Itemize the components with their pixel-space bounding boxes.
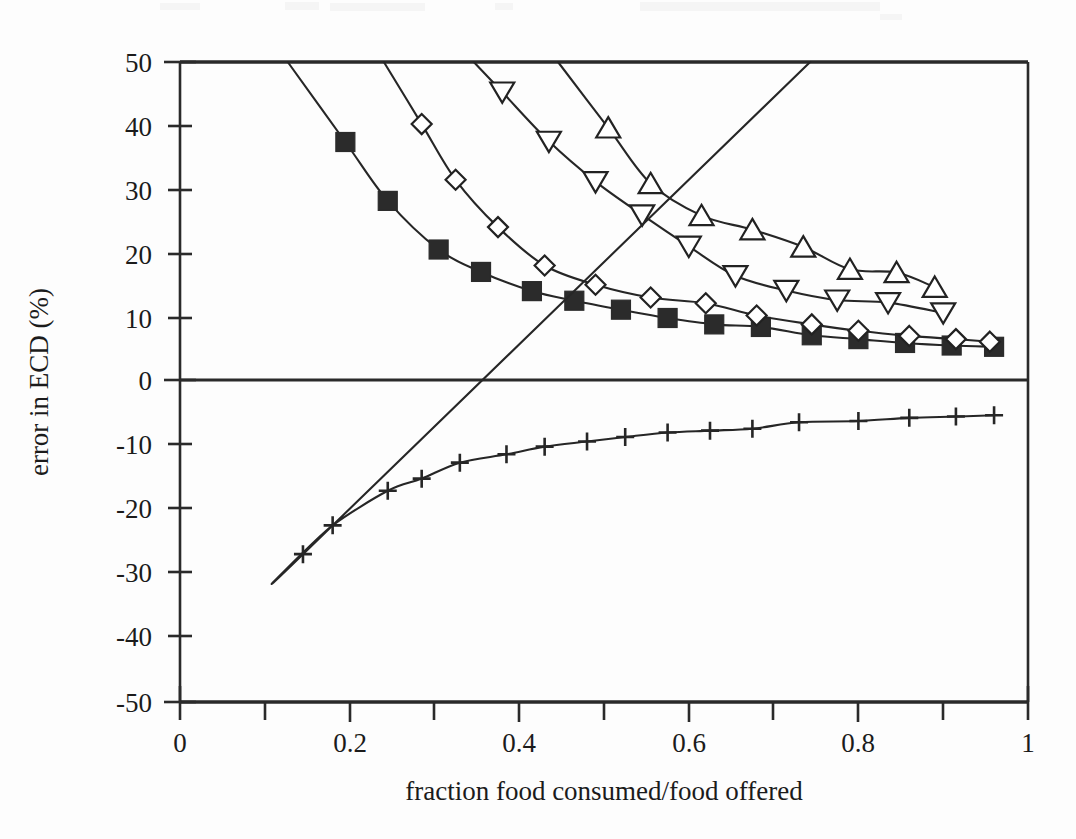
x-axis-title: fraction food consumed/food offered [405,776,803,806]
filled-square-marker [611,300,630,319]
y-tick-label: 40 [125,112,152,142]
filled-square-marker [658,309,677,328]
filled-square-marker [705,315,724,334]
filled-square-marker [522,282,541,301]
y-tick-label: -50 [116,688,152,718]
y-axis-title: error in ECD (%) [24,288,54,476]
y-tick-label: 50 [125,48,152,78]
filled-square-marker [429,240,448,259]
y-tick-label: 10 [125,304,152,334]
y-tick-label: 30 [125,176,152,206]
y-tick-label: -20 [116,494,152,524]
y-tick-label: 0 [139,366,153,396]
filled-square-marker [565,291,584,310]
chart-figure: 50 40 30 20 10 0 -10 -20 -30 -40 -50 0 0… [0,0,1076,839]
y-tick-label: -30 [116,558,152,588]
y-tick-label: -40 [116,622,152,652]
figure-page: 50 40 30 20 10 0 -10 -20 -30 -40 -50 0 0… [0,0,1076,839]
figure-background [0,0,1076,839]
y-tick-label: -10 [116,430,152,460]
x-tick-label: 0.4 [502,728,536,758]
filled-square-marker [336,133,355,152]
x-tick-label: 0 [173,728,187,758]
x-tick-label: 1 [1021,728,1035,758]
filled-square-marker [378,191,397,210]
x-tick-label: 0.2 [333,728,367,758]
x-tick-label: 0.8 [841,728,875,758]
x-tick-label: 0.6 [672,728,706,758]
filled-square-marker [472,262,491,281]
y-tick-label: 20 [125,240,152,270]
